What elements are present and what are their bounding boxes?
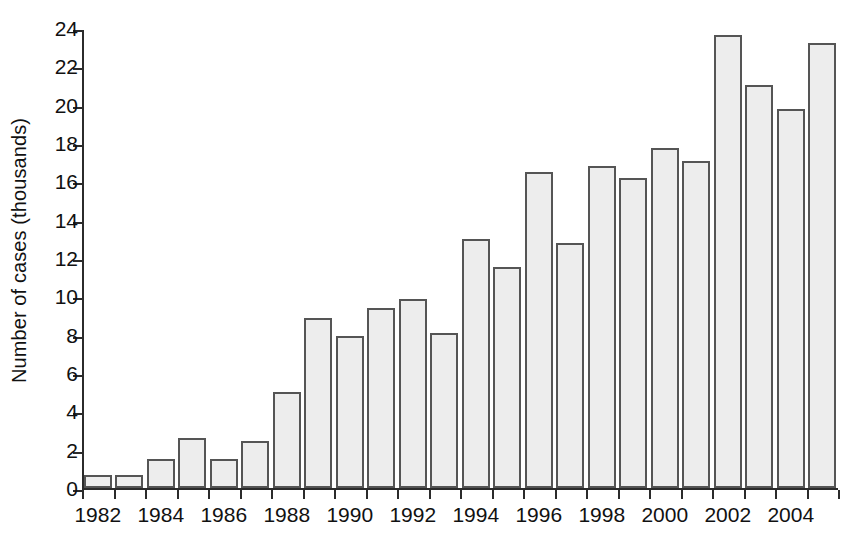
bar — [556, 243, 584, 488]
bar — [84, 475, 112, 488]
y-tick-label: 18 — [55, 133, 78, 154]
x-tick-label: 1994 — [452, 504, 499, 526]
y-tick-label: 2 — [66, 440, 78, 461]
x-tick-mark — [145, 490, 147, 499]
x-tick-mark — [271, 490, 273, 499]
x-tick-label: 1982 — [74, 504, 121, 526]
y-tick-label: 10 — [55, 286, 78, 307]
bar — [241, 441, 269, 488]
plot-area: 024681012141618202224 198219841986198819… — [82, 28, 838, 490]
y-tick-label: 4 — [66, 401, 78, 422]
bar — [525, 172, 553, 488]
x-tick-label: 1990 — [326, 504, 373, 526]
x-tick-label: 1996 — [515, 504, 562, 526]
x-tick-mark — [523, 490, 525, 499]
x-tick-mark — [744, 490, 746, 499]
bar — [147, 459, 175, 488]
x-tick-mark — [303, 490, 305, 499]
bar — [493, 267, 521, 488]
bar — [304, 318, 332, 488]
bar — [336, 336, 364, 488]
x-tick-label: 1988 — [263, 504, 310, 526]
x-tick-mark — [240, 490, 242, 499]
bar — [462, 239, 490, 488]
bar — [682, 161, 710, 488]
x-tick-label: 2000 — [641, 504, 688, 526]
y-tick-label: 14 — [55, 210, 78, 231]
bar — [714, 35, 742, 488]
bar — [273, 392, 301, 488]
bar — [808, 43, 836, 488]
x-tick-mark — [838, 490, 840, 499]
y-axis-title: Number of cases (thousands) — [0, 0, 40, 500]
bar — [399, 299, 427, 488]
bar — [651, 148, 679, 488]
y-tick-label: 12 — [55, 248, 78, 269]
y-tick-label: 24 — [55, 18, 78, 39]
x-tick-mark — [618, 490, 620, 499]
bar — [178, 438, 206, 488]
y-tick-label: 6 — [66, 363, 78, 384]
x-tick-mark — [177, 490, 179, 499]
bar — [430, 333, 458, 488]
bar-chart-figure: Number of cases (thousands) 024681012141… — [0, 0, 850, 545]
x-tick-mark — [649, 490, 651, 499]
bar — [210, 459, 238, 488]
x-tick-label: 2004 — [767, 504, 814, 526]
bar — [619, 178, 647, 489]
x-tick-mark — [681, 490, 683, 499]
x-tick-mark — [114, 490, 116, 499]
x-tick-mark — [555, 490, 557, 499]
bar — [115, 475, 143, 488]
bar — [588, 166, 616, 488]
y-tick-label: 8 — [66, 325, 78, 346]
x-tick-mark — [366, 490, 368, 499]
bar — [777, 109, 805, 489]
y-tick-label: 20 — [55, 95, 78, 116]
x-tick-mark — [82, 490, 84, 499]
x-tick-mark — [586, 490, 588, 499]
x-tick-mark — [807, 490, 809, 499]
bar — [745, 85, 773, 488]
x-tick-mark — [712, 490, 714, 499]
x-tick-label: 1986 — [200, 504, 247, 526]
x-tick-mark — [492, 490, 494, 499]
x-tick-label: 1992 — [389, 504, 436, 526]
y-axis-line — [82, 30, 84, 490]
x-tick-label: 2002 — [704, 504, 751, 526]
y-tick-label: 22 — [55, 56, 78, 77]
y-tick-label: 0 — [66, 478, 78, 499]
x-tick-mark — [429, 490, 431, 499]
y-tick-label: 16 — [55, 171, 78, 192]
x-tick-mark — [460, 490, 462, 499]
x-tick-label: 1984 — [137, 504, 184, 526]
x-tick-label: 1998 — [578, 504, 625, 526]
bar — [367, 308, 395, 488]
x-tick-mark — [334, 490, 336, 499]
x-tick-mark — [397, 490, 399, 499]
y-axis-title-label: Number of cases (thousands) — [9, 117, 32, 382]
x-tick-mark — [208, 490, 210, 499]
x-tick-mark — [775, 490, 777, 499]
